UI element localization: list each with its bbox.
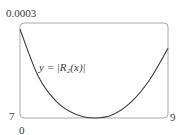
x-max-label: 9 — [170, 112, 176, 123]
chart-plot — [0, 0, 177, 135]
x-min-label: 7 — [9, 111, 15, 122]
annotation-text: y = |R₂(x)| — [39, 61, 86, 73]
y-max-label: 0.0003 — [6, 8, 36, 19]
curve-annotation: y = |R₂(x)| — [39, 62, 86, 73]
y-min-label: 0 — [19, 125, 25, 135]
remainder-curve — [20, 29, 168, 118]
